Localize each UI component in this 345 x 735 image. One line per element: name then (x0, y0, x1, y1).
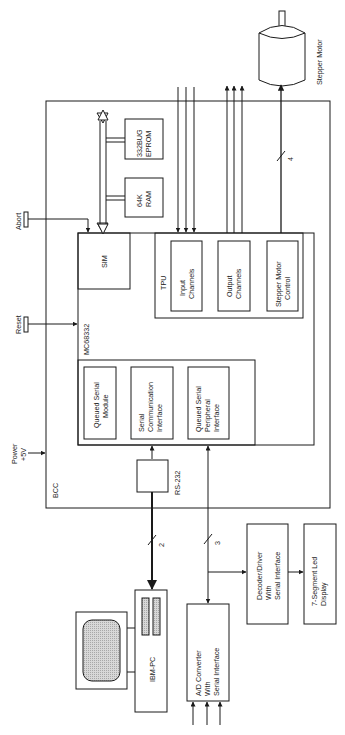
qsm-label-1: Queued Serial (92, 382, 101, 428)
stepper-motor-icon (259, 11, 305, 86)
bus-width-3: 3 (213, 541, 222, 545)
qspi-label-2: Peripheral (203, 399, 212, 432)
eprom-label-2: EPROM (144, 131, 153, 157)
bus-width-4: 4 (286, 157, 295, 161)
qspi-label-3: Interface (212, 404, 221, 432)
reset-label: Reset (14, 315, 23, 334)
output-channels-label-2: Channels (234, 268, 243, 299)
mc68332-label: MC68332 (82, 324, 91, 355)
ibm-pc-box (135, 590, 167, 712)
adc-label-2: With (203, 682, 212, 696)
led-display-block (304, 524, 336, 624)
led-display-label-1: 7-Segment Led (310, 557, 319, 606)
led-display-label-2: Display (319, 582, 328, 606)
rs232-block (137, 460, 168, 492)
decoder-label-2: With (264, 586, 273, 600)
eprom-label-1: 332BUG (135, 129, 144, 157)
abort-switch (24, 212, 28, 227)
abort-label: Abort (14, 213, 23, 230)
adc-label-3: Serial Interface (212, 648, 221, 696)
decoder-label-3: Serial Interface (273, 552, 282, 600)
stepper-motor-label: Stepper Motor (315, 39, 324, 85)
adc-label-1: A/D Converter (194, 650, 203, 696)
tpu-label: TPU (159, 276, 168, 290)
drive-slot-1 (142, 598, 149, 635)
stepper-control-label-2: Control (283, 276, 292, 300)
qsm-label-2: Module (101, 394, 110, 418)
reset-switch (24, 317, 28, 332)
decoder-label-1: Decoder/Driver (255, 551, 264, 600)
output-channels-label-1: Output (225, 275, 234, 297)
sci-label-1: Serial (137, 413, 146, 432)
power-voltage-label: +5V (19, 448, 28, 461)
block-diagram: BCC MC68332 SIM TPU Input Channels Outpu… (0, 0, 345, 735)
system-bus (97, 95, 125, 234)
monitor-screen (83, 620, 120, 681)
input-channels-label-2: Channels (187, 268, 196, 299)
bcc-board (46, 101, 330, 508)
ram-label-1: 64K (135, 194, 144, 207)
sci-label-3: Interface (155, 404, 164, 432)
power-label: Power (10, 443, 19, 464)
sim-label: SIM (100, 255, 109, 268)
stepper-control-label-1: Stepper Motor (274, 261, 283, 307)
sci-label-2: Communication (146, 382, 155, 432)
bcc-label: BCC (51, 483, 60, 498)
drive-slot-2 (153, 598, 160, 635)
ram-label-2: RAM (144, 191, 153, 207)
input-channels-label-1: Input (178, 280, 187, 296)
bus-width-2: 2 (157, 543, 166, 547)
ibm-pc-label: IBM-PC (148, 657, 157, 682)
rs232-label: RS-232 (173, 471, 182, 495)
qspi-label-1: Queued Serial (194, 386, 203, 432)
